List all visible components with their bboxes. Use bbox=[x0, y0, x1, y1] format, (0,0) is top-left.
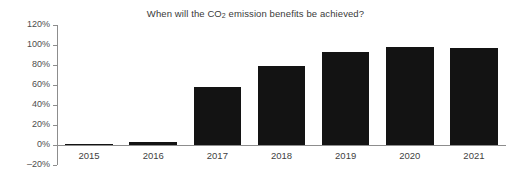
bar-2015 bbox=[65, 144, 112, 146]
x-axis-label: 2018 bbox=[249, 150, 313, 161]
x-axis-label: 2016 bbox=[121, 150, 185, 161]
y-axis-tick-mark bbox=[53, 25, 57, 26]
y-axis-tick-label: 120% bbox=[27, 19, 50, 29]
y-axis-tick-mark bbox=[53, 145, 57, 146]
y-axis-tick-mark bbox=[53, 85, 57, 86]
chart-title-text-before: When will the CO bbox=[147, 8, 222, 19]
bar-2016 bbox=[129, 142, 176, 145]
y-axis-tick-label: 80% bbox=[32, 59, 50, 69]
y-axis-tick-mark bbox=[53, 165, 57, 166]
y-axis-tick-mark bbox=[53, 105, 57, 106]
x-axis-label: 2021 bbox=[442, 150, 506, 161]
y-axis-tick-label: 100% bbox=[27, 39, 50, 49]
bar-2020 bbox=[386, 47, 433, 145]
chart-title-text-after: emission benefits be achieved? bbox=[226, 8, 364, 19]
y-axis-tick-mark bbox=[53, 45, 57, 46]
bar-2018 bbox=[258, 66, 305, 145]
x-axis-label: 2019 bbox=[314, 150, 378, 161]
y-axis-tick-label: 0% bbox=[37, 139, 50, 149]
y-axis-tick-label: 60% bbox=[32, 79, 50, 89]
bar-2021 bbox=[450, 48, 497, 145]
x-axis-line bbox=[57, 145, 506, 146]
y-axis-line bbox=[57, 25, 58, 165]
bar-2019 bbox=[322, 52, 369, 145]
y-axis-tick-label: 40% bbox=[32, 99, 50, 109]
y-axis-tick-label: –20% bbox=[27, 159, 50, 169]
y-axis-tick-mark bbox=[53, 125, 57, 126]
chart-title: When will the CO2 emission benefits be a… bbox=[0, 8, 511, 19]
bar-chart: When will the CO2 emission benefits be a… bbox=[0, 0, 511, 174]
bar-2017 bbox=[194, 87, 241, 145]
x-axis-label: 2017 bbox=[185, 150, 249, 161]
y-axis-tick-label: 20% bbox=[32, 119, 50, 129]
x-axis-label: 2015 bbox=[57, 150, 121, 161]
x-axis-label: 2020 bbox=[378, 150, 442, 161]
y-axis-tick-mark bbox=[53, 65, 57, 66]
